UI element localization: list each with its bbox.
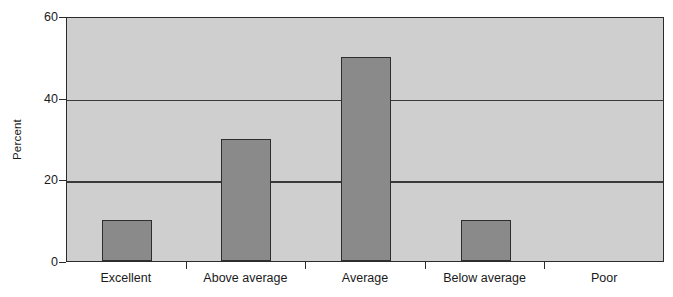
bar	[221, 139, 271, 262]
bar-chart: Percent 0204060 ExcellentAbove averageAv…	[0, 0, 673, 297]
y-tick-mark	[59, 17, 66, 18]
y-axis-tick-labels: 0204060	[10, 0, 58, 297]
x-tick-mark	[425, 262, 426, 269]
x-tick-mark	[186, 262, 187, 269]
x-tick-label: Poor	[534, 271, 673, 285]
bar	[102, 220, 152, 261]
y-tick-mark	[59, 99, 66, 100]
y-tick-mark	[59, 180, 66, 181]
x-tick-mark	[305, 262, 306, 269]
bar	[461, 220, 511, 261]
bar	[341, 57, 391, 261]
x-axis: ExcellentAbove averageAverageBelow avera…	[0, 262, 673, 297]
plot-area	[66, 17, 664, 262]
x-tick-mark	[544, 262, 545, 269]
y-tick-label: 60	[16, 10, 58, 24]
y-tick-label: 20	[16, 173, 58, 187]
y-tick-label: 40	[16, 92, 58, 106]
